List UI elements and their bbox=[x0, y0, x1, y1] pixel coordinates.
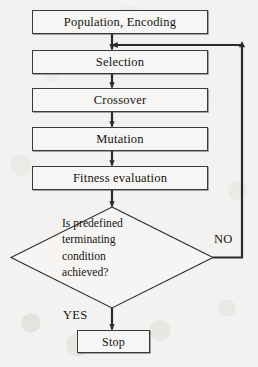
edge-label-yes: YES bbox=[63, 308, 88, 323]
node-selection[interactable]: Selection bbox=[32, 50, 208, 74]
edge-label-no: NO bbox=[214, 232, 233, 247]
node-mutation-label: Mutation bbox=[96, 133, 143, 146]
node-stop-label: Stop bbox=[102, 336, 125, 348]
decision-diamond-shape bbox=[11, 207, 213, 308]
node-stop[interactable]: Stop bbox=[77, 330, 150, 353]
node-population-label: Population, Encoding bbox=[64, 16, 176, 29]
node-crossover[interactable]: Crossover bbox=[32, 88, 208, 112]
node-fitness-label: Fitness evaluation bbox=[73, 172, 167, 185]
node-selection-label: Selection bbox=[96, 56, 144, 69]
node-mutation[interactable]: Mutation bbox=[32, 127, 208, 151]
node-fitness[interactable]: Fitness evaluation bbox=[32, 166, 208, 190]
node-crossover-label: Crossover bbox=[94, 94, 147, 107]
node-population[interactable]: Population, Encoding bbox=[32, 10, 208, 34]
